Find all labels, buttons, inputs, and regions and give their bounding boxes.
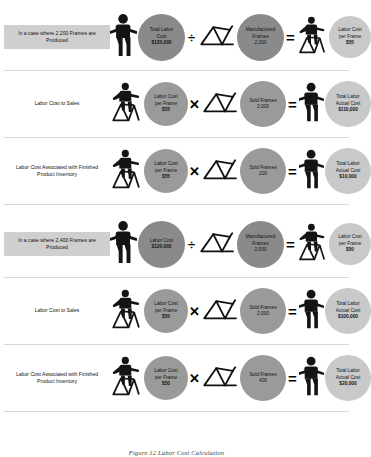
- result-worker-figure: [297, 223, 328, 265]
- figure-caption: Figure 12 Labor Cost Calculation: [0, 449, 353, 456]
- result-circle-line: $100,000: [338, 314, 358, 320]
- worker-on-frame-icon: [297, 16, 328, 54]
- worker-on-frame-icon: [110, 82, 143, 122]
- left-worker-figure: [110, 220, 137, 268]
- operand-a-circle: Total LaborCost$120,000: [138, 14, 185, 61]
- left-worker-figure: [110, 13, 137, 61]
- result-circle: Labor Costper Frame$55: [329, 16, 371, 58]
- calculation-row: Labor Cost Associated with Finished Prod…: [4, 345, 349, 411]
- bicycle-frame-figure: [198, 229, 236, 259]
- worker-on-frame-icon: [297, 223, 328, 261]
- calculation-row: In a case where 2,200 Frames are Produce…: [4, 4, 349, 70]
- multiply-operator-icon: ✕: [189, 372, 200, 385]
- operand-a-circle-line: $120,000: [151, 40, 171, 46]
- bicycle-frame-figure: [201, 89, 239, 119]
- result-circle-line: $50: [346, 247, 354, 253]
- worker-on-frame-icon: [110, 289, 143, 329]
- diagram-blocks: In a case where 2,200 Frames are Produce…: [4, 4, 349, 412]
- left-worker-figure: [110, 356, 143, 400]
- operand-b-circle-line: 2,000: [254, 247, 266, 253]
- equals-operator-icon: =: [285, 30, 296, 45]
- operand-a-circle-line: $55: [162, 107, 170, 113]
- worker-standing-icon: [110, 220, 137, 264]
- equals-operator-icon: =: [285, 237, 296, 252]
- bicycle-frame-icon: [198, 22, 236, 48]
- result-circle: Total LaborActual Cost$20,000: [325, 355, 371, 401]
- equals-operator-icon: =: [287, 97, 298, 112]
- result-circle: Total LaborActual Cost$110,000: [325, 81, 371, 127]
- result-circle: Total LaborActual Cost$10,000: [325, 148, 371, 194]
- bicycle-frame-figure: [201, 296, 239, 326]
- row-label: Labor Cost to Sales: [4, 307, 110, 314]
- divide-operator-icon: ÷: [186, 31, 197, 44]
- bicycle-frame-icon: [201, 156, 239, 182]
- bicycle-frame-icon: [201, 363, 239, 389]
- operand-a-circle: Labor Costper Frame$55: [144, 82, 188, 126]
- row-label: In a case where 2,400 Frames are Produce…: [4, 232, 110, 257]
- operand-b-circle: Sold Frames2,000: [240, 288, 286, 334]
- left-worker-figure: [110, 289, 143, 333]
- bicycle-frame-figure: [201, 363, 239, 393]
- divide-operator-icon: ÷: [186, 238, 197, 251]
- row-divider: [4, 411, 349, 412]
- left-worker-figure: [110, 149, 143, 193]
- result-worker-figure: [299, 289, 324, 333]
- multiply-operator-icon: ✕: [189, 305, 200, 318]
- calculation-row: In a case where 2,400 Frames are Produce…: [4, 211, 349, 277]
- calculation-row: Labor Cost Associated with Finished Prod…: [4, 138, 349, 204]
- equals-operator-icon: =: [287, 371, 298, 386]
- multiply-operator-icon: ✕: [189, 165, 200, 178]
- operand-a-circle: Labor Costper Frame$55: [144, 289, 188, 333]
- operand-b-circle: ManufacturedFrames2,000: [237, 221, 284, 268]
- worker-on-frame-icon: [110, 149, 143, 189]
- result-circle-line: $55: [346, 40, 354, 46]
- bicycle-frame-figure: [198, 22, 236, 52]
- bicycle-frame-icon: [201, 89, 239, 115]
- worker-standing-icon: [110, 13, 137, 57]
- operand-a-circle-line: $50: [162, 381, 170, 387]
- equals-operator-icon: =: [287, 164, 298, 179]
- operand-b-circle: Sold Frames2,000: [240, 81, 286, 127]
- operand-a-circle: Labor Costper Frame$55: [144, 149, 188, 193]
- worker-standing-icon: [299, 356, 324, 396]
- operand-b-circle: Sold Frames200: [240, 148, 286, 194]
- case-block: In a case where 2,400 Frames are Produce…: [4, 211, 349, 412]
- equation-flow: Labor Costper Frame$55✕ Sold Frames2,000…: [110, 71, 371, 137]
- equation-flow: Labor Cost$120,000÷ ManufacturedFrames2,…: [110, 211, 371, 277]
- calculation-row: Labor Cost to Sales Labor Costper Frame$…: [4, 71, 349, 137]
- calculation-row: Labor Cost to Sales Labor Costper Frame$…: [4, 278, 349, 344]
- operand-b-circle: Sold Frames400: [240, 355, 286, 401]
- left-worker-figure: [110, 82, 143, 126]
- result-circle: Total LaborActual Cost$100,000: [325, 288, 371, 334]
- row-label: Labor Cost to Sales: [4, 100, 110, 107]
- operand-b-circle-line: 2,200: [254, 40, 266, 46]
- operand-b-circle-line: 200: [259, 171, 267, 177]
- operand-b-circle-line: 2,000: [257, 311, 269, 317]
- result-worker-figure: [299, 149, 324, 193]
- worker-on-frame-icon: [110, 356, 143, 396]
- worker-standing-icon: [299, 82, 324, 122]
- result-worker-figure: [299, 356, 324, 400]
- result-worker-figure: [299, 82, 324, 126]
- row-label: Labor Cost Associated with Finished Prod…: [4, 371, 110, 386]
- result-circle-line: $110,000: [338, 107, 358, 113]
- operand-b-circle-line: 400: [259, 378, 267, 384]
- operand-a-circle-line: $120,000: [151, 244, 171, 250]
- equation-flow: Labor Costper Frame$55✕ Sold Frames2,000…: [110, 278, 371, 344]
- result-circle-line: $20,000: [339, 381, 356, 387]
- operand-a-circle: Labor Cost$120,000: [138, 221, 185, 268]
- worker-standing-icon: [299, 149, 324, 189]
- operand-a-circle: Labor Costper Frame$50: [144, 356, 188, 400]
- equation-flow: Labor Costper Frame$55✕ Sold Frames200= …: [110, 138, 371, 204]
- worker-standing-icon: [299, 289, 324, 329]
- multiply-operator-icon: ✕: [189, 98, 200, 111]
- bicycle-frame-figure: [201, 156, 239, 186]
- bicycle-frame-icon: [201, 296, 239, 322]
- bicycle-frame-icon: [198, 229, 236, 255]
- result-worker-figure: [297, 16, 328, 58]
- row-label: Labor Cost Associated with Finished Prod…: [4, 164, 110, 179]
- operand-a-circle-line: $55: [162, 314, 170, 320]
- equals-operator-icon: =: [287, 304, 298, 319]
- operand-b-circle-line: 2,000: [257, 104, 269, 110]
